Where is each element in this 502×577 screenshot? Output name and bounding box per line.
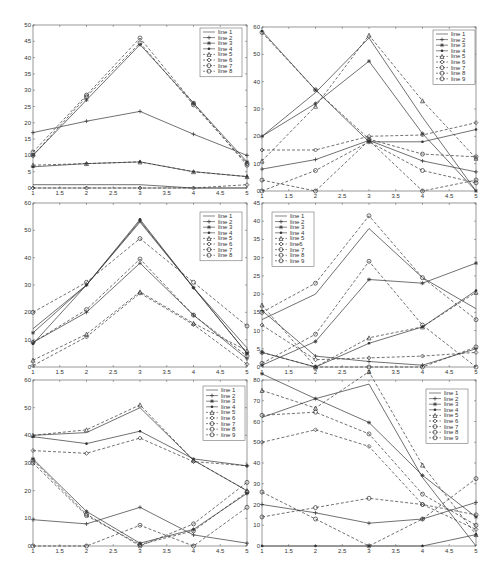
x-tick-label: 4.5	[445, 193, 454, 199]
y-tick-label: 30	[24, 460, 31, 466]
figure-canvas: 11.522.533.544.5505101520253035404550lin…	[0, 0, 502, 577]
x-tick-label: 3	[138, 548, 142, 554]
x-tick-label: 3	[138, 369, 142, 375]
x-tick-label: 3.5	[163, 369, 172, 375]
x-tick-label: 2.5	[338, 369, 347, 375]
x-tick-label: 5	[245, 190, 249, 196]
legend: line 1line 2line 3line 4line 5line 6line…	[200, 28, 242, 77]
x-tick-label: 1	[31, 369, 35, 375]
x-tick-label: 1	[31, 548, 35, 554]
x-tick-label: 4.5	[216, 369, 225, 375]
legend: line 1line 2line 3line 4line 5line 6line…	[203, 386, 245, 440]
y-tick-label: 45	[253, 200, 260, 206]
x-tick-label: 4	[192, 548, 196, 554]
x-tick-label: 1.5	[285, 369, 294, 375]
y-tick-label: 30	[253, 481, 260, 487]
y-tick-label: 60	[253, 24, 260, 30]
y-tick-label: 20	[24, 309, 31, 315]
x-tick-label: 1	[260, 193, 264, 199]
x-tick-label: 3	[138, 190, 142, 196]
x-tick-label: 3.5	[392, 369, 401, 375]
y-tick-label: 60	[24, 200, 31, 206]
x-tick-label: 3.5	[392, 193, 401, 199]
y-tick-label: 10	[253, 161, 260, 167]
x-tick-label: 1	[31, 190, 35, 196]
y-tick-label: 35	[253, 236, 260, 242]
x-tick-label: 3.5	[163, 548, 172, 554]
line-chart-panel-2: 11.522.533.544.550102030405060line 1line…	[253, 24, 478, 199]
legend-entry: line 9	[221, 432, 236, 438]
legend-entry: line 9	[444, 435, 459, 441]
x-tick-label: 4	[192, 190, 196, 196]
y-tick-label: 40	[24, 255, 31, 261]
y-tick-label: 40	[24, 432, 31, 438]
y-tick-label: 15	[24, 136, 31, 142]
legend-entry: line 9	[290, 258, 305, 264]
x-tick-label: 3.5	[392, 548, 401, 554]
y-tick-label: 15	[253, 309, 260, 315]
y-tick-label: 25	[24, 104, 31, 110]
x-tick-label: 2	[85, 190, 89, 196]
x-tick-label: 2	[314, 548, 318, 554]
y-tick-label: 50	[24, 227, 31, 233]
y-tick-label: 60	[253, 419, 260, 425]
y-tick-label: 20	[253, 133, 260, 139]
x-tick-label: 2.5	[109, 190, 118, 196]
line-chart-panel-3: 11.522.533.544.550102030405060line 1line…	[24, 200, 249, 375]
legend-entry: line 9	[451, 76, 466, 82]
x-tick-label: 4	[421, 548, 425, 554]
y-tick-label: 20	[24, 120, 31, 126]
y-tick-label: 50	[253, 51, 260, 57]
x-tick-label: 4	[192, 369, 196, 375]
x-tick-label: 3	[367, 548, 371, 554]
y-tick-label: 50	[24, 405, 31, 411]
y-tick-label: 30	[253, 106, 260, 112]
y-tick-label: 10	[24, 152, 31, 158]
x-tick-label: 1.5	[56, 190, 65, 196]
x-tick-label: 1.5	[285, 548, 294, 554]
x-tick-label: 1.5	[56, 548, 65, 554]
x-tick-label: 5	[474, 548, 478, 554]
y-tick-label: 40	[253, 79, 260, 85]
y-tick-label: 30	[24, 87, 31, 93]
x-tick-label: 2	[314, 193, 318, 199]
y-tick-label: 80	[253, 377, 260, 383]
x-tick-label: 4.5	[445, 548, 454, 554]
y-tick-label: 5	[257, 346, 261, 352]
y-tick-label: 20	[24, 488, 31, 494]
x-tick-label: 5	[245, 369, 249, 375]
x-tick-label: 1	[260, 548, 264, 554]
y-tick-label: 5	[28, 169, 32, 175]
x-tick-label: 2.5	[109, 369, 118, 375]
y-tick-label: 50	[24, 22, 31, 28]
x-tick-label: 2	[314, 369, 318, 375]
y-tick-label: 40	[253, 218, 260, 224]
y-tick-label: 20	[253, 502, 260, 508]
legend: line 1line 2line 3line 4line 5line 6line…	[433, 30, 475, 84]
x-tick-label: 4.5	[216, 190, 225, 196]
x-tick-label: 3	[367, 193, 371, 199]
x-tick-label: 1.5	[285, 193, 294, 199]
legend-entry: line 8	[218, 68, 233, 74]
x-tick-label: 2.5	[109, 548, 118, 554]
y-tick-label: 10	[253, 328, 260, 334]
x-tick-label: 5	[245, 548, 249, 554]
x-tick-label: 4.5	[445, 369, 454, 375]
x-tick-label: 5	[474, 369, 478, 375]
x-tick-label: 3.5	[163, 190, 172, 196]
x-tick-label: 1.5	[56, 369, 65, 375]
y-tick-label: 40	[24, 55, 31, 61]
y-tick-label: 10	[253, 522, 260, 528]
y-tick-label: 10	[24, 515, 31, 521]
y-tick-label: 30	[253, 255, 260, 261]
x-tick-label: 2	[85, 369, 89, 375]
legend-entry: line 8	[218, 252, 233, 258]
legend: line 1line 2line 3line 4line 5line 6line…	[426, 389, 468, 443]
x-tick-label: 5	[474, 193, 478, 199]
y-tick-label: 25	[253, 273, 260, 279]
y-tick-label: 35	[24, 71, 31, 77]
y-tick-label: 60	[24, 377, 31, 383]
legend: line 1line 2line 3line 4line 5line 6line…	[200, 212, 242, 261]
x-tick-label: 4	[421, 193, 425, 199]
legend: line 1line 2line 3line 4line 5line6line …	[272, 212, 314, 266]
